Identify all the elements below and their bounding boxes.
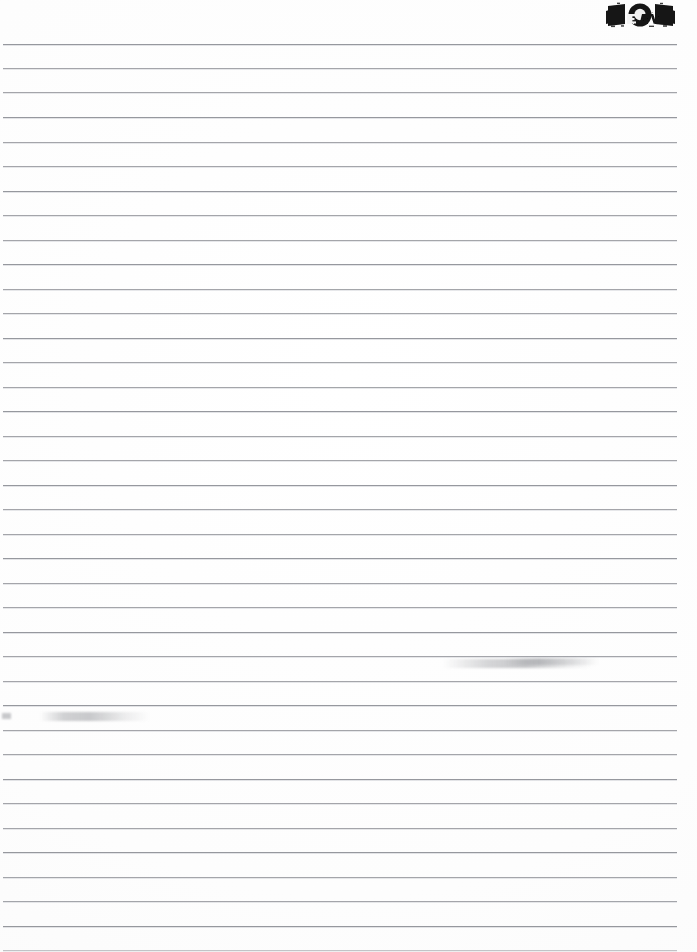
rule-line [3, 117, 677, 118]
rule-line [3, 852, 677, 853]
rule-line [3, 289, 677, 290]
rule-line [3, 387, 677, 388]
rule-line [3, 92, 677, 93]
rule-line [3, 485, 677, 486]
rule-line [3, 877, 677, 878]
rule-line [3, 828, 677, 829]
rule-line [3, 730, 677, 731]
rule-line [3, 460, 677, 461]
rule-line [3, 534, 677, 535]
rule-line [3, 362, 677, 363]
ruled-lines-layer [0, 0, 697, 952]
rule-line [3, 264, 677, 265]
rule-line [3, 803, 677, 804]
rule-line [3, 338, 677, 339]
scanned-page [0, 0, 697, 952]
rule-line [3, 950, 677, 951]
rule-line [3, 901, 677, 902]
rule-line [3, 215, 677, 216]
rule-line [3, 411, 677, 412]
rule-line [3, 313, 677, 314]
rule-line [3, 681, 677, 682]
rule-line [3, 509, 677, 510]
rule-line [3, 44, 677, 45]
rule-line [3, 632, 677, 633]
rule-line [3, 166, 677, 167]
rule-line [3, 705, 677, 706]
rule-line [3, 656, 677, 657]
rule-line [3, 68, 677, 69]
rule-line [3, 779, 677, 780]
rule-line [3, 436, 677, 437]
rule-line [3, 607, 677, 608]
rule-line [3, 754, 677, 755]
page-number-stamp [605, 2, 677, 29]
rule-line [3, 191, 677, 192]
rule-line [3, 240, 677, 241]
rule-line [3, 926, 677, 927]
rule-line [3, 583, 677, 584]
rule-line [3, 558, 677, 559]
rule-line [3, 142, 677, 143]
